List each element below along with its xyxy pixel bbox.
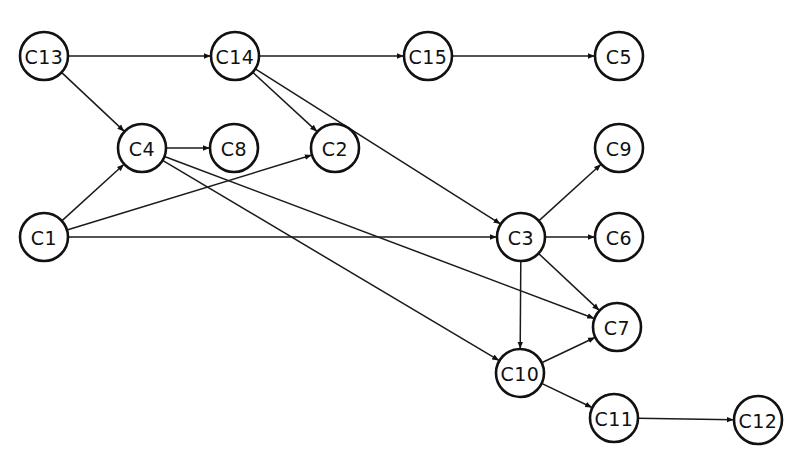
node-label: C13 [25, 46, 64, 68]
node-label: C7 [604, 317, 630, 339]
node-c1: C1 [20, 213, 68, 261]
node-label: C10 [501, 363, 540, 385]
node-c10: C10 [496, 349, 544, 397]
edge-c1-to-c4 [62, 165, 124, 221]
edge-c3-to-c10 [520, 261, 521, 348]
nodes-layer: C13C14C15C5C4C8C2C9C1C3C6C7C10C11C12 [20, 32, 782, 444]
node-c9: C9 [595, 124, 643, 172]
figure-caption [0, 463, 807, 475]
node-c7: C7 [593, 303, 641, 351]
node-label: C11 [595, 408, 634, 430]
node-label: C8 [221, 138, 247, 160]
node-label: C5 [606, 46, 632, 68]
node-c8: C8 [210, 124, 258, 172]
node-label: C1 [31, 227, 57, 249]
node-label: C12 [739, 410, 778, 432]
node-c5: C5 [595, 32, 643, 80]
node-label: C14 [216, 46, 255, 68]
node-c2: C2 [311, 124, 359, 172]
node-c14: C14 [211, 32, 259, 80]
edge-c10-to-c11 [542, 383, 592, 407]
node-c6: C6 [595, 213, 643, 261]
edge-c10-to-c7 [542, 338, 595, 363]
node-c12: C12 [734, 396, 782, 444]
node-label: C9 [606, 138, 632, 160]
node-label: C4 [129, 138, 155, 160]
node-c11: C11 [590, 394, 638, 442]
node-c4: C4 [118, 124, 166, 172]
node-label: C2 [322, 138, 348, 160]
node-label: C15 [409, 46, 448, 68]
node-c3: C3 [497, 213, 545, 261]
edge-c13-to-c4 [62, 72, 124, 130]
edge-c14-to-c3 [255, 69, 500, 224]
node-c15: C15 [404, 32, 452, 80]
node-c13: C13 [20, 32, 68, 80]
edge-c3-to-c9 [539, 165, 601, 221]
edge-c11-to-c12 [638, 418, 733, 419]
node-label: C6 [606, 227, 632, 249]
precedence-diagram: C13C14C15C5C4C8C2C9C1C3C6C7C10C11C12 [0, 0, 807, 475]
node-label: C3 [508, 227, 534, 249]
